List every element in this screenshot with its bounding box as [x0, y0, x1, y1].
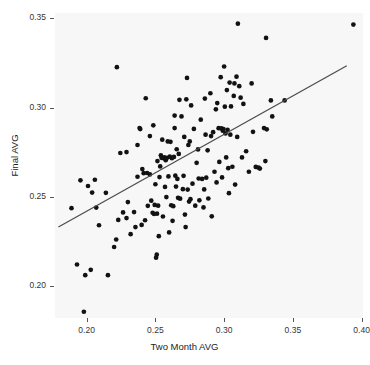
data-point [185, 76, 190, 81]
data-point [201, 205, 206, 210]
y-tick-mark [50, 286, 54, 287]
data-point [194, 160, 199, 165]
data-point [174, 147, 179, 152]
data-point [75, 262, 80, 267]
data-point [197, 198, 202, 203]
data-point [170, 218, 175, 223]
data-point [158, 164, 163, 169]
x-tick-label: 0.20 [78, 325, 95, 335]
data-point [214, 107, 219, 112]
data-point [206, 196, 211, 201]
data-point [133, 225, 138, 230]
data-point [135, 143, 140, 148]
data-point [200, 177, 205, 182]
x-tick-mark [362, 318, 363, 322]
data-point [212, 169, 217, 174]
data-point [269, 98, 274, 103]
x-tick-mark [293, 318, 294, 322]
data-point [145, 203, 150, 208]
data-point [126, 200, 131, 205]
x-tick-label: 0.30 [216, 325, 233, 335]
data-point [148, 134, 153, 139]
y-tick-mark [50, 197, 54, 198]
data-point [190, 181, 195, 186]
data-point [237, 84, 242, 89]
data-point [132, 210, 137, 215]
plot-panel [55, 13, 363, 318]
data-point [160, 137, 165, 142]
data-point [174, 184, 179, 189]
data-point [218, 75, 223, 80]
data-point [205, 148, 210, 153]
data-point [175, 177, 180, 182]
data-point [135, 174, 140, 179]
data-point [93, 177, 98, 182]
data-point [106, 273, 111, 278]
data-point [156, 203, 161, 208]
data-point [198, 117, 203, 122]
data-point [172, 126, 177, 131]
data-point [232, 81, 237, 86]
data-point [124, 150, 129, 155]
data-point [229, 104, 234, 109]
data-point [238, 95, 243, 100]
data-point [88, 267, 93, 272]
data-point [208, 91, 213, 96]
data-point [161, 214, 166, 219]
data-point [189, 103, 194, 108]
data-point [224, 155, 229, 160]
data-point [258, 166, 263, 171]
y-tick-label: 0.25 [0, 191, 46, 201]
data-point [138, 127, 143, 132]
data-point [185, 187, 190, 192]
data-point [240, 155, 245, 160]
data-point [215, 101, 220, 106]
data-point [128, 232, 133, 237]
x-axis-title: Two Month AVG [0, 341, 369, 352]
y-tick-mark [50, 108, 54, 109]
y-axis-title: Final AVG [9, 106, 20, 206]
data-point [202, 187, 207, 192]
data-point [164, 195, 169, 200]
data-point [116, 218, 121, 223]
data-point [140, 167, 145, 172]
data-point [183, 212, 188, 217]
data-point [156, 234, 161, 239]
data-point [220, 175, 225, 180]
data-point [90, 190, 95, 195]
data-point [233, 182, 238, 187]
data-point [270, 114, 275, 119]
x-tick-label: 0.25 [147, 325, 164, 335]
data-point [172, 155, 177, 160]
data-point [182, 135, 187, 140]
data-point [181, 187, 186, 192]
data-point [168, 139, 173, 144]
data-point [176, 152, 181, 157]
data-point [227, 191, 232, 196]
data-point [231, 94, 236, 99]
data-point [112, 245, 117, 250]
data-point [241, 102, 246, 107]
x-tick-mark [87, 318, 88, 322]
data-point [222, 104, 227, 109]
data-point [192, 127, 197, 132]
data-point [184, 97, 189, 102]
y-tick-label: 0.30 [0, 102, 46, 112]
data-point [149, 198, 154, 203]
data-point [121, 210, 126, 215]
data-point [155, 159, 160, 164]
data-point [263, 159, 268, 164]
data-point [139, 223, 144, 228]
data-point [179, 114, 184, 119]
data-point [114, 237, 119, 242]
data-point [82, 309, 87, 314]
data-point [143, 96, 148, 101]
data-point [203, 96, 208, 101]
x-tick-mark [224, 318, 225, 322]
data-point [167, 230, 172, 235]
data-point [188, 197, 193, 202]
data-point [177, 98, 182, 103]
data-point [351, 22, 356, 27]
data-point [203, 132, 208, 137]
data-point [209, 214, 214, 219]
